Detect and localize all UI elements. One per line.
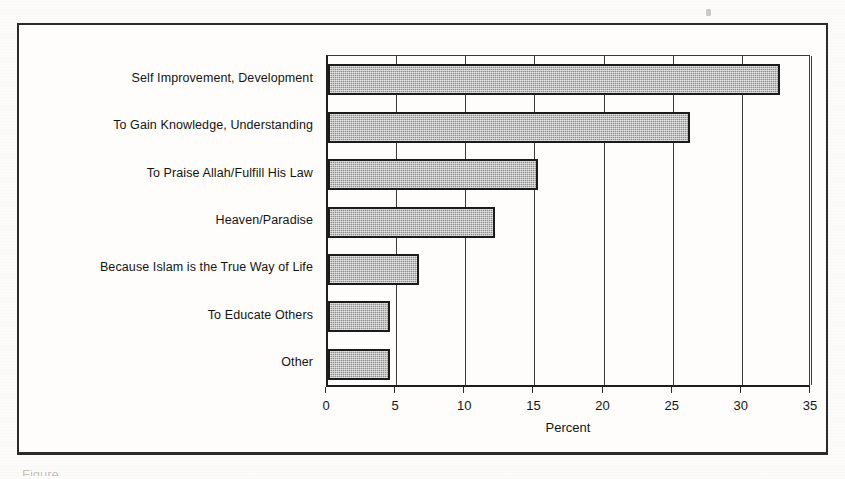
bar <box>328 207 495 238</box>
x-axis-title: Percent <box>326 421 810 434</box>
bar <box>328 349 390 380</box>
tickmark-35 <box>809 387 810 393</box>
bar <box>328 112 690 143</box>
x-tick-label: 30 <box>734 399 748 412</box>
category-label: Heaven/Paradise <box>216 214 313 227</box>
bar <box>328 64 780 95</box>
bar-row <box>328 64 809 95</box>
bar <box>328 301 390 332</box>
tickmark-10 <box>463 387 464 393</box>
category-label: Self Improvement, Development <box>132 72 313 85</box>
tickmark-20 <box>602 387 603 393</box>
x-tick-label: 5 <box>392 399 399 412</box>
tickmark-5 <box>394 387 395 393</box>
tickmark-25 <box>671 387 672 393</box>
bar-chart: Self Improvement, DevelopmentTo Gain Kno… <box>19 25 830 457</box>
x-tick-label: 25 <box>664 399 678 412</box>
category-label: To Gain Knowledge, Understanding <box>113 119 313 132</box>
figure-page: Self Improvement, DevelopmentTo Gain Kno… <box>0 0 845 479</box>
bar <box>328 254 419 285</box>
category-label: Because Islam is the True Way of Life <box>100 261 313 274</box>
x-tick-label: 20 <box>595 399 609 412</box>
x-tick-label: 15 <box>526 399 540 412</box>
tickmark-0 <box>325 387 326 393</box>
bar-row <box>328 159 809 190</box>
bar-row <box>328 301 809 332</box>
bar-row <box>328 112 809 143</box>
tickmark-15 <box>532 387 533 393</box>
bar-row <box>328 254 809 285</box>
x-tick-label: 35 <box>803 399 817 412</box>
category-label: Other <box>281 356 313 369</box>
x-tick-label: 10 <box>457 399 471 412</box>
figure-caption-cutoff: Figure <box>22 468 492 476</box>
figure-frame: Self Improvement, DevelopmentTo Gain Kno… <box>17 23 828 455</box>
plot-area <box>326 55 810 387</box>
gridline-35 <box>811 56 812 385</box>
scan-artifact-speck <box>706 9 711 16</box>
x-tick-label: 0 <box>322 399 329 412</box>
bar-row <box>328 207 809 238</box>
bar-row <box>328 349 809 380</box>
category-label: To Praise Allah/Fulfill His Law <box>147 167 313 180</box>
bar <box>328 159 538 190</box>
tickmark-30 <box>740 387 741 393</box>
category-label: To Educate Others <box>208 309 313 322</box>
